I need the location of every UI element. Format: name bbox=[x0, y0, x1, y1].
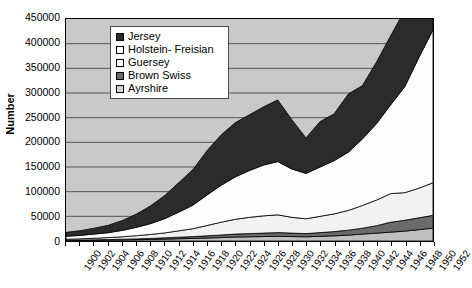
legend-item-label: Brown Swiss bbox=[128, 69, 191, 82]
legend-item-label: Ayrshire bbox=[128, 82, 168, 95]
x-axis-tickmark bbox=[420, 242, 421, 246]
x-axis-tickmark bbox=[79, 242, 80, 246]
x-axis-tickmark bbox=[136, 242, 137, 246]
x-axis-tickmark bbox=[391, 242, 392, 246]
legend-swatch-icon bbox=[116, 33, 124, 41]
y-axis-tick-350000: 350000 bbox=[4, 62, 60, 73]
chart-legend: JerseyHolstein- FreisianGuerseyBrown Swi… bbox=[110, 26, 229, 99]
legend-swatch-icon bbox=[116, 85, 124, 93]
y-axis-tick-250000: 250000 bbox=[4, 112, 60, 123]
x-axis-tickmark bbox=[164, 242, 165, 246]
x-axis-tickmark bbox=[207, 242, 208, 246]
legend-swatch-icon bbox=[116, 72, 124, 80]
x-axis-tickmark bbox=[250, 242, 251, 246]
legend-item[interactable]: Ayrshire bbox=[116, 82, 224, 95]
legend-item-label: Jersey bbox=[128, 30, 160, 43]
legend-item[interactable]: Guersey bbox=[116, 56, 224, 69]
x-axis-tickmark bbox=[306, 242, 307, 246]
legend-item-label: Guersey bbox=[128, 56, 170, 69]
x-axis-tickmark bbox=[221, 242, 222, 246]
x-axis-tickmark bbox=[264, 242, 265, 246]
y-axis-tick-300000: 300000 bbox=[4, 87, 60, 98]
x-axis-tickmark bbox=[93, 242, 94, 246]
x-axis-tickmark bbox=[122, 242, 123, 246]
x-axis-tickmark bbox=[193, 242, 194, 246]
y-axis-tick-450000: 450000 bbox=[4, 12, 60, 23]
y-axis-tick-150000: 150000 bbox=[4, 161, 60, 172]
y-axis-tick-100000: 100000 bbox=[4, 186, 60, 197]
legend-item[interactable]: Brown Swiss bbox=[116, 69, 224, 82]
legend-swatch-icon bbox=[116, 59, 124, 67]
x-axis-tickmark bbox=[65, 242, 66, 246]
legend-item[interactable]: Jersey bbox=[116, 30, 224, 43]
x-axis-tickmark bbox=[108, 242, 109, 246]
x-axis-tickmark bbox=[292, 242, 293, 246]
legend-item-label: Holstein- Freisian bbox=[128, 43, 214, 56]
x-axis-tickmark bbox=[335, 242, 336, 246]
x-axis-tickmark bbox=[278, 242, 279, 246]
x-axis-tickmark bbox=[434, 242, 435, 246]
x-axis-tick-labels: 1900190219041906190819101912191419161918… bbox=[0, 242, 448, 288]
y-axis-tick-400000: 400000 bbox=[4, 37, 60, 48]
legend-swatch-icon bbox=[116, 46, 124, 54]
y-axis-tick-50000: 50000 bbox=[4, 211, 60, 222]
x-axis-tickmark bbox=[235, 242, 236, 246]
x-axis-tickmark bbox=[406, 242, 407, 246]
x-axis-tickmark bbox=[320, 242, 321, 246]
x-axis-tickmark bbox=[179, 242, 180, 246]
x-axis-tickmark bbox=[349, 242, 350, 246]
x-axis-tickmark bbox=[150, 242, 151, 246]
legend-item[interactable]: Holstein- Freisian bbox=[116, 43, 224, 56]
y-axis-tick-200000: 200000 bbox=[4, 136, 60, 147]
x-axis-tickmark bbox=[377, 242, 378, 246]
x-axis-tickmark bbox=[363, 242, 364, 246]
